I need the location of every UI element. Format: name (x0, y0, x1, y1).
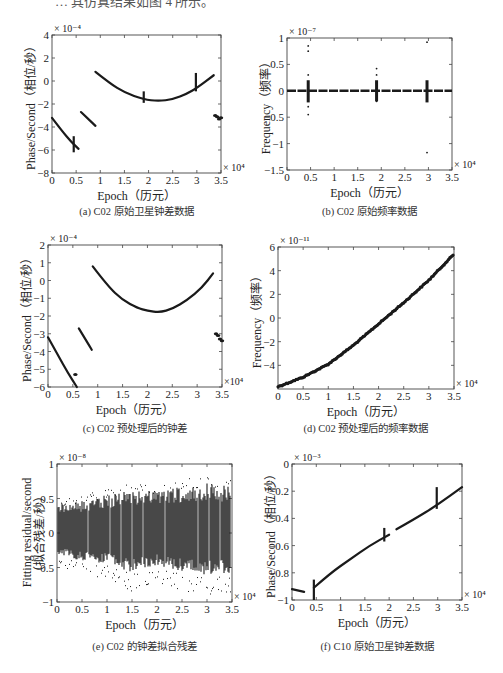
figure-caption: (f) C10 原始卫星钟差数据 (262, 638, 492, 653)
x-tick-label: 2.5 (407, 601, 421, 613)
x-tick-label: 2 (386, 601, 392, 613)
chart-panel-f: 00.511.522.533.5−1−0.8−0.6−0.4−0.20× 10⁻… (0, 0, 503, 673)
x-tick-label: 3 (435, 601, 441, 613)
y-tick-label: 0 (284, 458, 290, 470)
x-axis-label: Epoch（历元） (292, 613, 462, 631)
x-tick-label: 0.5 (309, 601, 323, 613)
y-tick-label: −1 (277, 594, 289, 606)
y-axis-label: Phase/Second（相位/秒） (261, 455, 279, 611)
chart-svg-f: 00.511.522.533.5−1−0.8−0.6−0.4−0.20× 10⁻… (0, 0, 503, 673)
x-tick-label: 0 (289, 601, 295, 613)
y-exponent-label: × 10⁻³ (294, 452, 320, 463)
data-series (292, 487, 462, 600)
x-tick-label: 3.5 (455, 601, 469, 613)
x-tick-label: 1.5 (358, 601, 372, 613)
plot-frame (292, 464, 462, 600)
x-exponent-label: × 10⁴ (464, 589, 486, 600)
x-tick-label: 1 (338, 601, 344, 613)
